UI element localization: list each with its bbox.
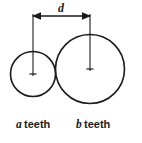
caption-gear-a: a teeth [16,118,51,130]
caption-gear-b-variable: b [76,118,82,130]
dimension-label-d: d [58,1,65,15]
caption-gear-a-word: teeth [24,118,51,130]
figure-root: d a teeth b teeth [0,0,142,143]
caption-gear-b: b teeth [76,118,111,130]
caption-gear-a-variable: a [16,118,22,130]
caption-gear-b-word: teeth [84,118,111,130]
gear-diagram-svg: d a teeth b teeth [0,0,142,143]
